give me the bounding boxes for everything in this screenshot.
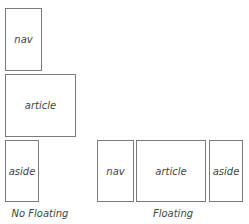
nf-article-box: article (5, 74, 76, 137)
f-aside-label: aside (213, 166, 240, 177)
f-article-box: article (136, 140, 206, 202)
nf-article-label: article (25, 100, 56, 111)
nf-aside-label: aside (9, 166, 36, 177)
nf-aside-box: aside (5, 140, 39, 202)
nf-nav-label: nav (14, 34, 32, 45)
f-aside-box: aside (209, 140, 243, 202)
nf-nav-box: nav (5, 8, 42, 71)
floating-caption: Floating (133, 208, 213, 219)
f-article-label: article (155, 166, 186, 177)
f-nav-label: nav (106, 166, 124, 177)
f-nav-box: nav (97, 140, 134, 202)
no-floating-caption: No Floating (0, 208, 80, 219)
